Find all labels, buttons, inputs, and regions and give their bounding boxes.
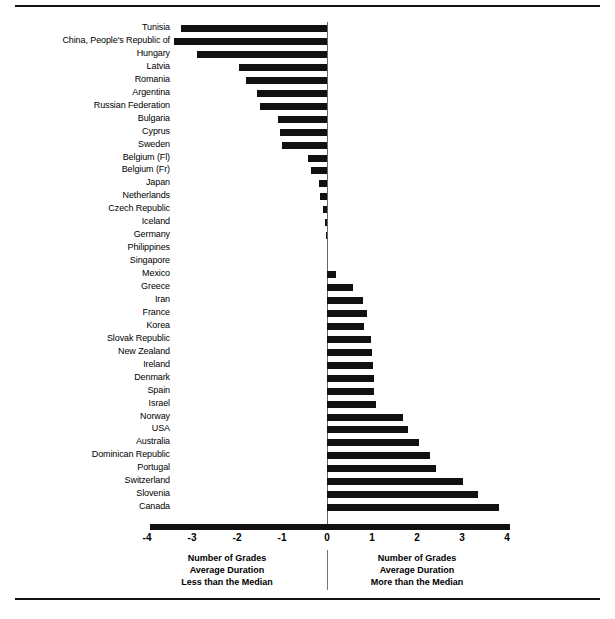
chart-row: Portugal	[0, 462, 615, 475]
category-label: Ireland	[143, 359, 170, 370]
chart-row: Netherlands	[0, 190, 615, 203]
value-bar	[278, 116, 328, 123]
chart-row: Sweden	[0, 139, 615, 152]
category-label: Germany	[134, 229, 170, 240]
category-label: Japan	[146, 177, 170, 188]
chart-row: Australia	[0, 436, 615, 449]
chart-row: Spain	[0, 385, 615, 398]
plot-area: TunisiaChina, People's Republic ofHungar…	[0, 0, 615, 530]
value-bar	[327, 362, 373, 369]
x-axis: -4-3-2-101234	[0, 524, 615, 536]
category-label: Romania	[135, 74, 170, 85]
x-tick-label: -3	[172, 532, 212, 543]
value-bar	[327, 465, 436, 472]
value-bar	[246, 77, 327, 84]
category-label: Slovak Republic	[107, 333, 170, 344]
value-bar	[174, 38, 327, 45]
category-label: Korea	[146, 320, 170, 331]
caption-line: Number of Grades	[332, 552, 502, 564]
chart-row: Argentina	[0, 87, 615, 100]
value-bar	[282, 142, 327, 149]
value-bar	[280, 129, 327, 136]
value-bar	[319, 180, 327, 187]
chart-row: Switzerland	[0, 475, 615, 488]
value-bar	[327, 401, 376, 408]
chart-row: Germany	[0, 229, 615, 242]
caption-right: Number of GradesAverage DurationMore tha…	[332, 552, 502, 588]
value-bar	[327, 414, 403, 421]
chart-row: Korea	[0, 320, 615, 333]
value-bar	[327, 271, 336, 278]
caption-line: Average Duration	[142, 564, 312, 576]
value-bar	[327, 504, 499, 511]
value-bar	[326, 232, 327, 239]
category-label: Singapore	[130, 255, 170, 266]
chart-row: Philippines	[0, 242, 615, 255]
category-label: Netherlands	[123, 190, 170, 201]
category-label: Dominican Republic	[92, 449, 170, 460]
value-bar	[325, 219, 327, 226]
category-label: Latvia	[147, 61, 170, 72]
caption-left: Number of GradesAverage DurationLess tha…	[142, 552, 312, 588]
category-label: Bulgaria	[138, 113, 170, 124]
value-bar	[327, 284, 353, 291]
value-bar	[257, 90, 327, 97]
category-label: Australia	[136, 436, 170, 447]
category-label: Russian Federation	[94, 100, 170, 111]
chart-row: Tunisia	[0, 22, 615, 35]
chart-row: Belgium (Fr)	[0, 164, 615, 177]
category-label: Belgium (Fl)	[123, 152, 170, 163]
category-label: Norway	[140, 411, 170, 422]
caption-line: Average Duration	[332, 564, 502, 576]
value-bar	[320, 193, 327, 200]
value-bar	[327, 426, 408, 433]
category-label: Argentina	[132, 87, 170, 98]
chart-row: Norway	[0, 411, 615, 424]
chart-row: Japan	[0, 177, 615, 190]
value-bar	[327, 491, 478, 498]
category-label: Iran	[155, 294, 170, 305]
chart-row: Iran	[0, 294, 615, 307]
chart-row: Slovak Republic	[0, 333, 615, 346]
value-bar	[327, 452, 430, 459]
chart-figure: TunisiaChina, People's Republic ofHungar…	[0, 0, 615, 619]
chart-row: Israel	[0, 398, 615, 411]
category-label: Israel	[149, 398, 170, 409]
caption-line: More than the Median	[332, 576, 502, 588]
x-tick-label: -4	[127, 532, 167, 543]
category-label: Portugal	[137, 462, 170, 473]
chart-row: New Zealand	[0, 346, 615, 359]
chart-row: Denmark	[0, 372, 615, 385]
chart-row: Slovenia	[0, 488, 615, 501]
category-label: Greece	[141, 281, 170, 292]
category-label: China, People's Republic of	[62, 35, 170, 46]
chart-row: Ireland	[0, 359, 615, 372]
x-tick-label: 4	[487, 532, 527, 543]
chart-row: Greece	[0, 281, 615, 294]
chart-row: Latvia	[0, 61, 615, 74]
value-bar	[311, 167, 327, 174]
chart-row: China, People's Republic of	[0, 35, 615, 48]
value-bar	[327, 297, 363, 304]
value-bar	[327, 478, 463, 485]
value-bar	[327, 336, 371, 343]
category-label: France	[143, 307, 170, 318]
value-bar	[327, 388, 374, 395]
bottom-rule	[15, 598, 600, 600]
category-label: Czech Republic	[108, 203, 170, 214]
category-label: USA	[152, 423, 170, 434]
category-label: New Zealand	[118, 346, 170, 357]
x-tick-label: 3	[442, 532, 482, 543]
chart-row: Singapore	[0, 255, 615, 268]
value-bar	[327, 323, 364, 330]
value-bar	[327, 375, 374, 382]
chart-row: Hungary	[0, 48, 615, 61]
caption-line: Less than the Median	[142, 576, 312, 588]
chart-row: Russian Federation	[0, 100, 615, 113]
category-label: Cyprus	[142, 126, 170, 137]
category-label: Canada	[139, 501, 170, 512]
chart-row: Canada	[0, 501, 615, 514]
x-tick-label: 1	[352, 532, 392, 543]
category-label: Switzerland	[125, 475, 170, 486]
chart-row: Dominican Republic	[0, 449, 615, 462]
